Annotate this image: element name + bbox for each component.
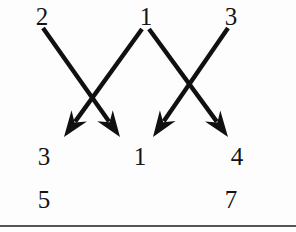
top-label-1: 1 [140,4,153,29]
page-divider-rule [0,225,296,227]
arrow-1-to-4-shaft [149,29,217,122]
middle-label-2: 4 [231,144,244,169]
top-label-2: 3 [225,4,238,29]
top-label-0: 2 [36,4,49,29]
arrow-2-to-1 [43,28,120,137]
arrow-3-to-1-head [153,110,176,137]
arrow-3-to-1-shaft [164,28,228,121]
arrow-2-to-1-shaft [43,28,109,121]
bottom-label-1: 7 [225,187,238,212]
middle-label-1: 1 [134,144,147,169]
bottom-label-0: 5 [38,187,51,212]
arrow-1-to-3 [64,29,142,137]
middle-label-0: 3 [38,144,51,169]
diagram-page: 2 1 3 3 1 4 5 7 [0,0,296,232]
arrow-1-to-3-shaft [75,29,142,122]
arrow-2-to-1-head [97,110,120,137]
arrow-1-to-3-head [64,110,87,137]
arrow-1-to-4-head [205,110,228,137]
